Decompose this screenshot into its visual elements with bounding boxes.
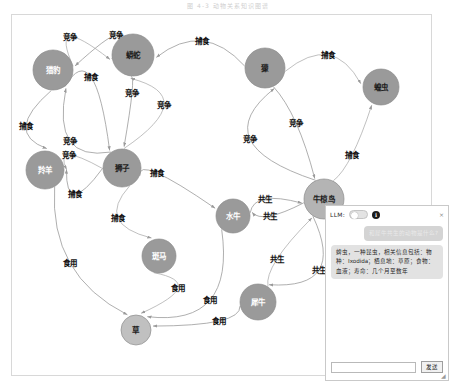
edge-label: 竞争 bbox=[242, 134, 258, 144]
node-label: 水牛 bbox=[226, 211, 241, 221]
edge-label: 捕食 bbox=[19, 121, 34, 131]
graph-node-lion[interactable]: 狮子 bbox=[103, 149, 141, 187]
edge-label: 捕食 bbox=[111, 213, 126, 223]
llm-chat-panel[interactable]: LLM: i × 和犀牛共生的动物是什么?蜱虫，一种昆虫，相关信息包括：物种：I… bbox=[325, 205, 449, 381]
graph-node-leopard[interactable]: 猎豹 bbox=[33, 50, 73, 90]
node-label: 蟒蛇 bbox=[126, 50, 141, 60]
chat-message-bot: 蜱虫，一种昆虫，相关信息包括：物种：Ixodida；栖息地：草原；食物：血液；寿… bbox=[331, 245, 443, 279]
chat-input-row: 发送 ◢ bbox=[326, 354, 448, 380]
node-label: 犀牛 bbox=[250, 297, 266, 307]
edge-label: 共生 bbox=[270, 254, 285, 264]
chat-message-list[interactable]: 和犀牛共生的动物是什么?蜱虫，一种昆虫，相关信息包括：物种：Ixodida；栖息… bbox=[326, 223, 448, 354]
edge-label: 捕食 bbox=[84, 72, 99, 82]
chat-input[interactable] bbox=[331, 362, 416, 373]
edge-label: 共生 bbox=[258, 194, 273, 204]
graph-edge bbox=[333, 105, 371, 180]
graph-node-rhino[interactable]: 犀牛 bbox=[240, 284, 276, 320]
figure-caption: 图 4-3 动物关系知识图谱 bbox=[0, 1, 456, 10]
edge-label: 捕食 bbox=[68, 189, 83, 199]
node-label: 猎豹 bbox=[46, 65, 61, 75]
node-label: 草 bbox=[132, 325, 140, 335]
edge-label: 食用 bbox=[212, 316, 226, 326]
graph-node-locust[interactable]: 蝗虫 bbox=[363, 69, 399, 105]
toggle-knob bbox=[351, 212, 358, 219]
graph-edge bbox=[54, 187, 127, 315]
edge-label: 竞争 bbox=[124, 88, 140, 98]
graph-edge bbox=[252, 203, 304, 217]
info-icon[interactable]: i bbox=[372, 211, 380, 219]
edge-label: 竞争 bbox=[156, 100, 172, 110]
graph-edge bbox=[117, 186, 152, 238]
graph-node-buffalo[interactable]: 水牛 bbox=[216, 199, 250, 233]
graph-edge bbox=[26, 90, 51, 148]
chat-panel-header: LLM: i × bbox=[326, 206, 448, 223]
edge-label: 捕食 bbox=[150, 168, 165, 178]
graph-edge bbox=[141, 273, 178, 314]
chat-message-user: 和犀牛共生的动物是什么? bbox=[364, 226, 443, 241]
edge-label: 食用 bbox=[171, 283, 185, 293]
graph-node-zebra[interactable]: 斑马 bbox=[142, 239, 176, 273]
edge-label: 竞争 bbox=[62, 32, 78, 42]
node-label: 斑马 bbox=[152, 251, 167, 261]
graph-edge bbox=[268, 218, 312, 286]
node-label: 蝗虫 bbox=[374, 82, 389, 92]
resize-grip[interactable]: ◢ bbox=[441, 373, 447, 379]
node-label: 狮子 bbox=[114, 163, 130, 173]
edge-label: 共生 bbox=[263, 211, 278, 221]
edge-label: 捕食 bbox=[195, 36, 210, 46]
graph-edge bbox=[124, 76, 133, 146]
node-label: 獴 bbox=[261, 63, 269, 73]
graph-edge bbox=[248, 89, 316, 181]
edge-label: 食用 bbox=[63, 258, 77, 268]
screenshot-root: 图 4-3 动物关系知识图谱 竞争竞争捕食捕食捕食竞争竞争捕食竞争竞争捕食捕食捕… bbox=[0, 0, 456, 389]
graph-edge bbox=[273, 87, 314, 179]
edge-label: 竞争 bbox=[288, 118, 304, 128]
node-label: 羚羊 bbox=[38, 165, 53, 175]
llm-toggle-switch[interactable] bbox=[349, 210, 368, 219]
llm-label: LLM: bbox=[330, 211, 345, 218]
edge-label: 食用 bbox=[203, 295, 217, 305]
node-label: 牛椋鸟 bbox=[313, 194, 335, 204]
graph-node-grass[interactable]: 草 bbox=[121, 315, 151, 345]
graph-node-antelope[interactable]: 羚羊 bbox=[26, 151, 64, 189]
edge-label: 捕食 bbox=[345, 150, 360, 160]
graph-node-python[interactable]: 蟒蛇 bbox=[112, 34, 154, 76]
close-icon[interactable]: × bbox=[438, 211, 445, 218]
graph-node-mongoose[interactable]: 獴 bbox=[245, 48, 285, 88]
send-button[interactable]: 发送 bbox=[421, 361, 443, 373]
graph-edge bbox=[153, 306, 240, 326]
edge-label: 捕食 bbox=[321, 50, 336, 60]
graph-edge bbox=[269, 216, 323, 285]
edge-label: 竞争 bbox=[61, 150, 77, 160]
edge-label: 竞争 bbox=[62, 136, 78, 146]
